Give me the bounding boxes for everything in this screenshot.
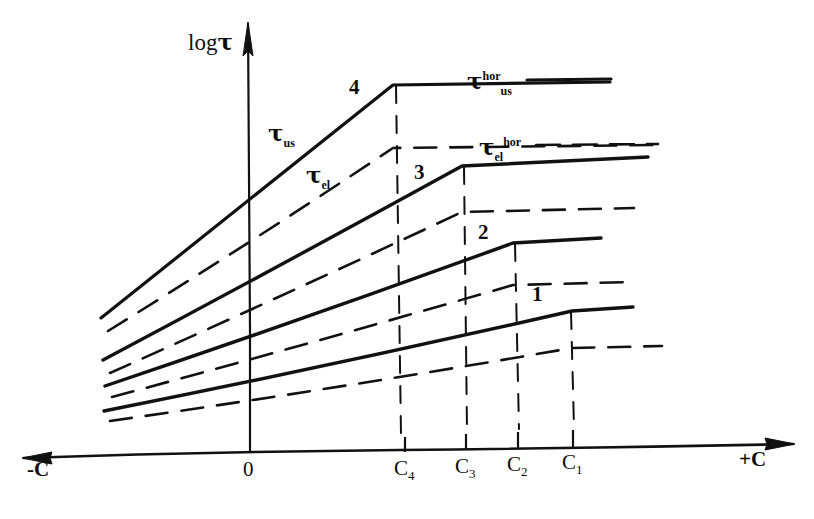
x-axis-tick-label-c4: C4 [394, 458, 415, 482]
series-label-tau-el-hor-sup: hor [503, 135, 521, 149]
legend-solid-segment-right [527, 79, 611, 80]
tick-label-c4-sub: 4 [408, 468, 415, 483]
y-axis-label-tau: τ [217, 28, 232, 55]
x-axis-tick-label-c3: C3 [455, 456, 476, 480]
curve-number-4: 4 [349, 77, 360, 98]
x-axis-line [24, 444, 793, 458]
series-label-tau-us: τus [268, 121, 295, 149]
y-axis-label: logτ [188, 30, 233, 54]
schematic-drawing [0, 0, 814, 519]
curve-number-2: 2 [478, 222, 489, 243]
drop-line-c2 [515, 244, 519, 429]
tick-label-c3-base: C [455, 454, 469, 478]
x-axis-tick-label-c1: C1 [562, 452, 583, 476]
x-axis-right-arrowhead [765, 438, 795, 450]
series-label-tau-hor-us-base: τ [467, 67, 482, 94]
curve-2-solid-tau-us [105, 238, 601, 386]
y-axis-arrowhead [243, 22, 253, 56]
tick-label-c3-sub: 3 [469, 466, 476, 481]
drop-line-c4 [396, 86, 401, 434]
y-axis [243, 22, 253, 451]
series-label-tau-hor-us: τhorus [467, 69, 512, 97]
x-axis-tick-label-c2: C2 [507, 454, 528, 478]
curve-4-group [101, 82, 658, 331]
tick-label-c2-sub: 2 [521, 464, 528, 479]
series-label-tau-el-base: τ [306, 161, 321, 188]
curve-3-dashed-tau-el [110, 208, 634, 373]
drop-line-c1 [571, 312, 574, 428]
series-label-tau-el-sub: el [321, 178, 330, 192]
series-label-tau-us-base: τ [268, 119, 283, 146]
y-axis-line [248, 24, 250, 451]
tick-label-c1-base: C [562, 450, 576, 474]
tick-label-c2-base: C [507, 452, 521, 476]
curve-1-group [104, 307, 662, 421]
tick-label-c1-sub: 1 [576, 462, 583, 477]
curve-3-solid-tau-us [103, 157, 648, 360]
series-label-tau-hor-us-sup: hor [482, 69, 500, 83]
legend-strokes [527, 79, 658, 145]
x-axis-origin-label: 0 [243, 459, 254, 480]
curve-2-dashed-tau-el [112, 282, 630, 397]
curve-number-1: 1 [532, 284, 543, 305]
series-label-tau-el-hor: τelhor [479, 135, 521, 163]
series-label-tau-el-hor-sub: el [494, 150, 503, 164]
curve-number-3: 3 [414, 162, 425, 183]
y-axis-label-text: log [188, 30, 217, 55]
x-axis-right-label: +C [739, 449, 766, 470]
series-label-tau-el-hor-base: τ [479, 133, 494, 160]
series-label-tau-us-sub: us [283, 136, 294, 150]
figure-canvas: logτ -C +C 0 C4 C3 C2 C1 4 3 2 1 τus τel… [0, 0, 814, 519]
curve-3-group [103, 157, 648, 373]
tick-label-c4-base: C [394, 456, 408, 480]
series-label-tau-el: τel [306, 163, 330, 191]
x-axis-left-label: -C [27, 459, 49, 480]
series-label-tau-hor-us-sub: us [500, 84, 511, 98]
